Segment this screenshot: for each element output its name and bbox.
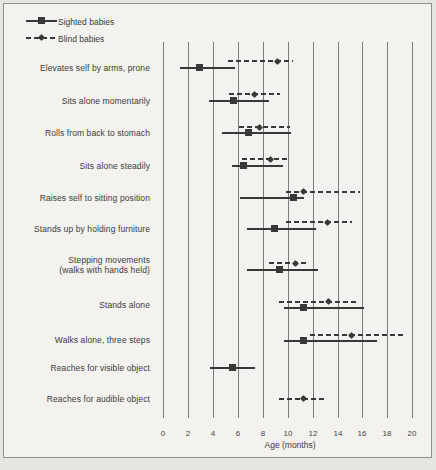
x-tick-label: 10 [279, 429, 297, 438]
row-label-line1: Sits alone steadily [80, 161, 150, 171]
blind-marker [325, 298, 332, 305]
x-tick-label: 6 [229, 429, 247, 438]
sighted-range-line [222, 132, 291, 134]
sighted-marker [271, 225, 278, 232]
blind-marker [267, 155, 274, 162]
sighted-range-line [180, 67, 235, 69]
gridline [263, 42, 264, 418]
blind-marker [274, 57, 281, 64]
gridline [188, 42, 189, 418]
gridline [288, 42, 289, 418]
row-label-line1: Stands up by holding furniture [34, 224, 150, 234]
gridline [362, 42, 363, 418]
blind-marker [251, 90, 258, 97]
legend-blind-label: Blind babies [58, 34, 104, 44]
x-tick-label: 8 [254, 429, 272, 438]
sighted-marker [300, 304, 307, 311]
blind-range-line [279, 301, 357, 303]
row-label-line2: (walks with hands held) [59, 265, 150, 275]
blind-marker [300, 395, 307, 402]
x-tick-label: 20 [403, 429, 421, 438]
blind-marker [324, 218, 331, 225]
sighted-marker [276, 266, 283, 273]
x-tick-label: 12 [304, 429, 322, 438]
row-label: Stands alone [99, 300, 150, 310]
blind-marker [292, 259, 299, 266]
sighted-range-line [284, 340, 377, 342]
blind-range-line [286, 191, 360, 193]
sighted-range-line [209, 100, 269, 102]
blind-marker [300, 188, 307, 195]
x-tick-label: 18 [378, 429, 396, 438]
row-label-line1: Elevates self by arms, prone [40, 63, 150, 73]
row-label: Reaches for visible object [51, 363, 150, 373]
row-label: Stepping movements(walks with hands held… [59, 255, 150, 275]
x-tick-label: 4 [204, 429, 222, 438]
blind-range-line [310, 334, 404, 336]
row-label: Elevates self by arms, prone [40, 63, 150, 73]
blind-marker [256, 123, 263, 130]
legend-sighted-square-icon [38, 17, 45, 24]
row-label: Walks alone, three steps [55, 335, 150, 345]
x-tick-label: 16 [353, 429, 371, 438]
sighted-range-line [247, 228, 316, 230]
row-label: Sits alone momentarily [62, 96, 150, 106]
blind-marker [348, 331, 355, 338]
sighted-marker [240, 162, 247, 169]
x-axis-title: Age (months) [230, 440, 350, 450]
row-label-line1: Stepping movements [59, 255, 150, 265]
gridline [387, 42, 388, 418]
row-label-line1: Walks alone, three steps [55, 335, 150, 345]
chart-area: 02468101214161820Elevates self by arms, … [0, 0, 436, 470]
sighted-marker [230, 97, 237, 104]
x-tick-label: 2 [179, 429, 197, 438]
x-tick-label: 14 [329, 429, 347, 438]
row-label: Reaches for audible object [47, 394, 150, 404]
blind-range-line [228, 60, 293, 62]
sighted-marker [300, 337, 307, 344]
sighted-range-line [284, 307, 364, 309]
row-label-line1: Sits alone momentarily [62, 96, 150, 106]
row-label-line1: Raises self to sitting position [40, 193, 150, 203]
row-label-line1: Reaches for visible object [51, 363, 150, 373]
gridline [238, 42, 239, 418]
row-label-line1: Rolls from back to stomach [45, 128, 150, 138]
row-label-line1: Stands alone [99, 300, 150, 310]
row-label: Sits alone steadily [80, 161, 150, 171]
blind-range-line [269, 262, 309, 264]
gridline [338, 42, 339, 418]
sighted-marker [229, 364, 236, 371]
blind-range-line [286, 221, 352, 223]
legend-sighted-label: Sighted babies [58, 17, 114, 27]
gridline [163, 42, 164, 418]
row-label-line1: Reaches for audible object [47, 394, 150, 404]
gridline [213, 42, 214, 418]
row-label: Rolls from back to stomach [45, 128, 150, 138]
row-label: Raises self to sitting position [40, 193, 150, 203]
gridline [313, 42, 314, 418]
x-tick-label: 0 [154, 429, 172, 438]
gridline [412, 42, 413, 418]
sighted-marker [290, 194, 297, 201]
sighted-marker [196, 64, 203, 71]
row-label: Stands up by holding furniture [34, 224, 150, 234]
sighted-marker [245, 129, 252, 136]
